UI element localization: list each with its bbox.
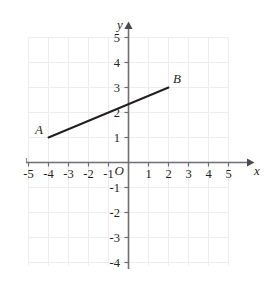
y-tick-label: -1 — [110, 181, 120, 195]
y-tick-label: -3 — [110, 231, 120, 245]
y-axis-label: y — [115, 17, 123, 32]
y-tick-labels: 5 4 3 2 1 -1 -2 -3 -4 — [110, 31, 121, 270]
x-tick-label: -4 — [43, 167, 54, 181]
x-tick-label: 3 — [185, 167, 191, 181]
x-tick-label: 1 — [145, 167, 151, 181]
coordinate-plane-chart: -5 -4 -3 -2 -1 1 2 3 4 5 5 4 3 2 1 -1 -2… — [0, 0, 272, 281]
y-tick-label: 3 — [114, 81, 120, 95]
point-label-a: A — [34, 122, 43, 137]
x-tick-label: -2 — [83, 167, 93, 181]
x-axis-label: x — [253, 163, 260, 178]
x-axis — [26, 158, 255, 167]
x-tick-label: -1 — [103, 167, 113, 181]
x-tick-label: -3 — [63, 167, 73, 181]
y-axis-arrow-icon — [124, 22, 132, 30]
y-axis — [124, 22, 132, 270]
y-tick-label: 4 — [114, 56, 121, 70]
x-tick-label: -5 — [23, 167, 33, 181]
y-tick-label: 5 — [114, 31, 120, 45]
x-tick-label: 2 — [165, 167, 171, 181]
x-tick-label: 4 — [205, 167, 212, 181]
origin-label: O — [115, 163, 125, 178]
x-tick-labels: -5 -4 -3 -2 -1 1 2 3 4 5 — [23, 167, 231, 181]
x-tick-label: 5 — [225, 167, 231, 181]
y-tick-label: -4 — [110, 256, 121, 270]
y-tick-label: -2 — [110, 206, 120, 220]
point-label-b: B — [173, 71, 181, 86]
y-tick-label: 1 — [114, 131, 120, 145]
